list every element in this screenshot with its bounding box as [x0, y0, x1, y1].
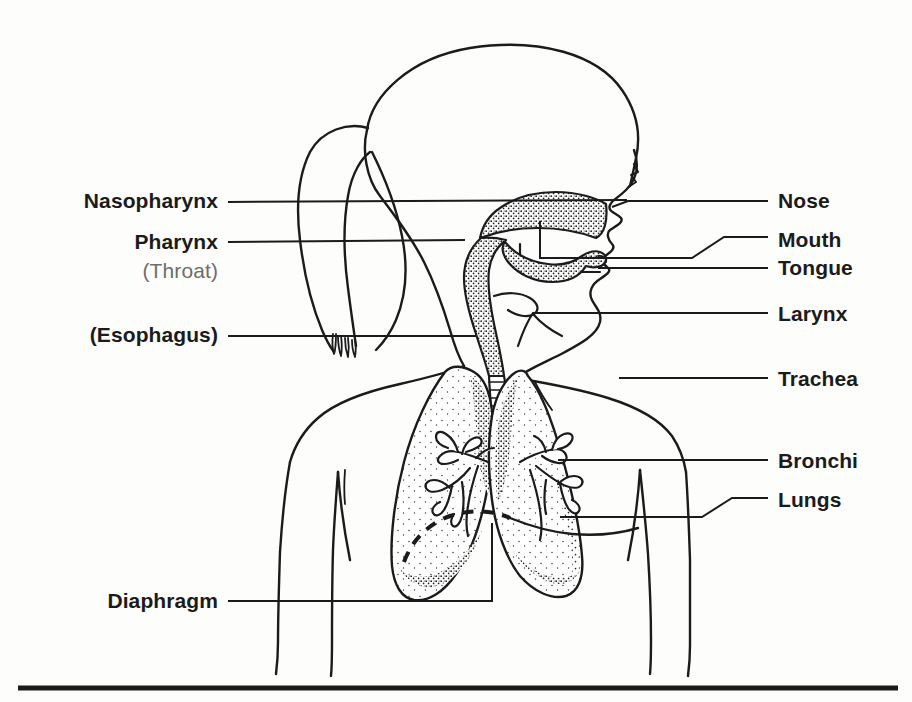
- tongue-shaded: [503, 242, 606, 282]
- left-armpit-crease: [344, 470, 345, 504]
- label-lungs: Lungs: [778, 489, 842, 510]
- label-esophagus: (Esophagus): [0, 324, 218, 345]
- head-back-contour: [365, 130, 464, 366]
- larynx-hyoid: [518, 313, 533, 346]
- label-bronchi: Bronchi: [778, 450, 858, 471]
- larynx-outline: [494, 293, 537, 316]
- label-diaphragm: Diaphragm: [0, 590, 218, 611]
- larynx-lower: [533, 314, 562, 336]
- label-larynx: Larynx: [778, 303, 847, 324]
- label-mouth: Mouth: [778, 229, 841, 250]
- pharynx-passage-shaded: [464, 238, 506, 376]
- left-arm-outer: [276, 462, 290, 674]
- right-torso-side: [628, 470, 640, 560]
- label-trachea: Trachea: [778, 368, 858, 389]
- right-arm-inner: [640, 470, 651, 674]
- label-nasopharynx: Nasopharynx: [0, 190, 218, 211]
- nasal-cavity-shaded: [480, 192, 607, 238]
- skull-outline: [367, 45, 638, 186]
- label-nose: Nose: [778, 190, 830, 211]
- ponytail-tip-strands: [332, 334, 355, 357]
- diagram-page: Nasopharynx Pharynx (Throat) (Esophagus)…: [0, 0, 912, 702]
- leader-lungs: [560, 498, 768, 517]
- right-arm-outer: [686, 472, 690, 676]
- label-throat: (Throat): [0, 260, 218, 281]
- anatomy-drawing: [276, 45, 690, 676]
- leader-nose: [612, 201, 768, 207]
- ponytail-hair-inner: [345, 152, 370, 346]
- ponytail-hair-outer: [298, 126, 368, 352]
- label-pharynx: Pharynx: [0, 231, 218, 252]
- ponytail-hair-right: [372, 152, 405, 350]
- leader-pharynx: [228, 240, 465, 242]
- label-tongue: Tongue: [778, 257, 853, 278]
- left-arm-inner: [331, 472, 338, 676]
